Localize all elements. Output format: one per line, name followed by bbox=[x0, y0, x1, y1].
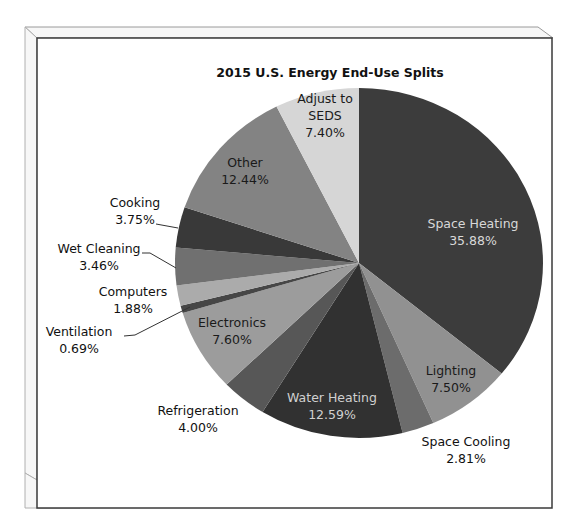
pie-slices bbox=[175, 88, 543, 438]
data-label-refrigeration: Refrigeration4.00% bbox=[157, 403, 238, 435]
chart-title: 2015 U.S. Energy End-Use Splits bbox=[216, 65, 444, 80]
data-label-ventilation: Ventilation0.69% bbox=[46, 324, 113, 356]
data-label-computers: Computers1.88% bbox=[99, 284, 168, 316]
data-label-space-cooling: Space Cooling2.81% bbox=[422, 434, 511, 466]
data-label-cooking: Cooking3.75% bbox=[110, 195, 161, 227]
pie-chart: 2015 U.S. Energy End-Use Splits Space He… bbox=[0, 0, 567, 511]
leader-line-wet-cleaning bbox=[142, 253, 176, 268]
data-label-wet-cleaning: Wet Cleaning3.46% bbox=[58, 241, 141, 273]
leader-line-cooking bbox=[156, 224, 178, 228]
